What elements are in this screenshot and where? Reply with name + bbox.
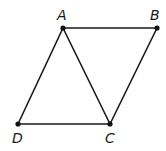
vertex-d-label: D <box>12 130 23 146</box>
segment-bc <box>110 28 157 124</box>
segments <box>18 28 157 124</box>
vertex-c-point <box>107 121 112 126</box>
parallelogram-diagram: ABCD <box>0 0 166 151</box>
vertex-b-point <box>154 25 159 30</box>
segment-da <box>18 28 63 124</box>
vertex-c-label: C <box>105 130 115 146</box>
vertex-d-point <box>15 121 20 126</box>
vertex-a-point <box>60 25 65 30</box>
segment-ac <box>63 28 110 124</box>
vertices <box>15 25 159 126</box>
vertex-b-label: B <box>150 7 160 23</box>
vertex-a-label: A <box>56 7 67 23</box>
